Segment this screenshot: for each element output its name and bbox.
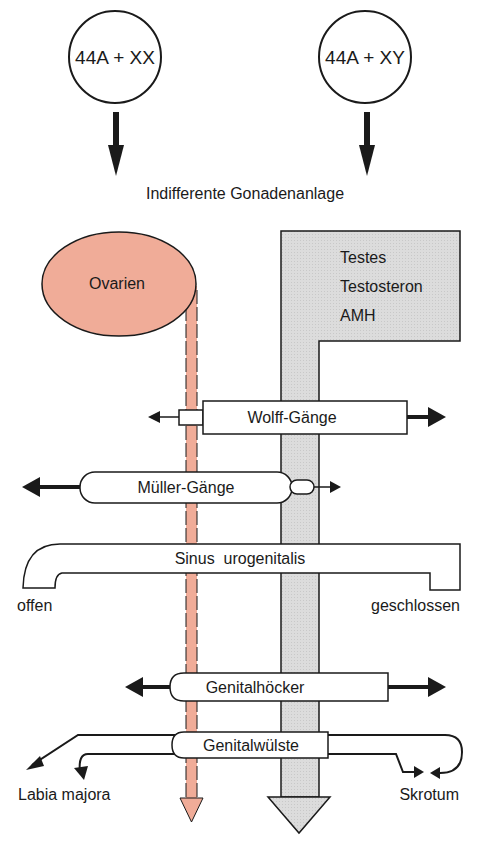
labia-majora-label: Labia majora [18,786,111,803]
indifferent-stage-label: Indifferente Gonadenanlage [146,185,344,202]
ovary-label: Ovarien [89,275,145,292]
arrow-left-icon [148,411,160,423]
testosteron-label: Testosteron [340,278,423,295]
arrow-left-icon [430,767,440,779]
genital-swellings: Genitalwülste Labia majora Skrotum [18,732,462,803]
amh-label: AMH [340,307,376,324]
male-genotype-node: 44A + XY [319,11,411,103]
arrow-left-icon [125,677,143,697]
female-pathway-arrowhead [180,798,203,822]
sexual-differentiation-diagram: 44A + XX 44A + XY Indifferente Gonadenan… [0,0,490,862]
wolff-label: Wolff-Gänge [247,409,336,426]
mueller-label: Müller-Gänge [138,479,235,496]
arrow-down-icon [74,766,88,780]
arrow-right-icon [330,481,341,493]
genitalhoecker-label: Genitalhöcker [206,679,305,696]
arrow-right-icon [414,766,424,778]
arrow-right-icon [428,407,446,427]
sinus-open-label: offen [17,597,52,614]
female-genotype-node: 44A + XX [69,11,161,103]
skrotum-label: Skrotum [399,786,459,803]
down-arrow-icon [359,112,375,176]
sinus-urogenitalis: Sinus urogenitalis offen geschlossen [17,544,460,614]
arrow-left-icon [22,477,40,497]
male-genotype-label: 44A + XY [325,47,405,68]
sinus-label: Sinus urogenitalis [175,550,306,567]
arrow-right-icon [428,677,446,697]
male-pathway-arrowhead [268,797,330,833]
genital-tubercle: Genitalhöcker [125,673,446,701]
female-genotype-label: 44A + XX [75,47,155,68]
genitalwuelste-label: Genitalwülste [203,737,299,754]
testes-label: Testes [340,249,386,266]
sinus-closed-label: geschlossen [371,597,460,614]
ovary-node: Ovarien [42,232,196,336]
down-arrow-icon [108,112,124,176]
